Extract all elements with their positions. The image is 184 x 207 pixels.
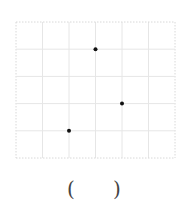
answer-open-paren: (: [67, 177, 75, 201]
grid-point: [94, 47, 98, 51]
answer-close-paren: ): [113, 177, 121, 201]
dot-grid-diagram: [0, 0, 184, 170]
grid-point: [67, 129, 71, 133]
grid-point: [120, 102, 124, 106]
